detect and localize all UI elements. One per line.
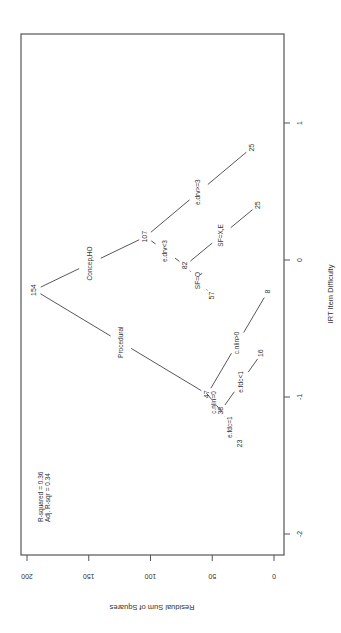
irt-tick-label: 0 bbox=[296, 258, 303, 262]
tree-node-rss: 107 bbox=[141, 231, 148, 243]
rss-tick-label: 50 bbox=[208, 573, 216, 580]
rss-tick-label: 100 bbox=[145, 573, 157, 580]
edge-split-label: Concep,HO bbox=[86, 246, 94, 280]
tree-node-rss: 57 bbox=[208, 292, 215, 300]
x-axis-title: IRT Item Difficulty bbox=[326, 264, 335, 323]
tree-edge bbox=[190, 243, 212, 261]
regression-tree-chart: 050100150200-2-101 Concep,HOProcedurale.… bbox=[0, 0, 341, 633]
tree-edge bbox=[225, 392, 234, 405]
tree-edge-labels: Concep,HOProcedurale.drv>=3e.drv<3SF=X,E… bbox=[86, 179, 244, 438]
tree-node-rss: 8 bbox=[264, 289, 271, 293]
edge-split-label: c.nlin>0 bbox=[233, 331, 240, 354]
edge-split-label: e.drv>=3 bbox=[194, 179, 201, 205]
tree-node-labels: 15410725822557478381623 bbox=[30, 144, 270, 448]
edge-split-label: e.fdc<1 bbox=[237, 371, 244, 393]
tree-edge bbox=[175, 258, 179, 261]
fit-statistics: R-squared = 0.36 Adj. R-sqr = 0.34 bbox=[37, 471, 52, 522]
edge-split-label: Procedural bbox=[117, 326, 124, 358]
edge-split-label: e.drv<3 bbox=[161, 240, 168, 262]
tree-node-rss: 25 bbox=[254, 201, 261, 209]
tree-edge bbox=[207, 289, 208, 290]
tree-node-rss: 25 bbox=[248, 144, 255, 152]
irt-tick-label: -1 bbox=[296, 394, 303, 400]
tree-node-rss: 154 bbox=[30, 284, 37, 296]
tree-edge bbox=[211, 353, 232, 388]
tree-edge bbox=[248, 359, 257, 372]
tree-node-rss: 47 bbox=[203, 390, 210, 398]
tree-edges bbox=[40, 152, 264, 437]
adj-r-squared-label: Adj. R-sqr = 0.34 bbox=[44, 473, 52, 522]
tree-edge bbox=[231, 210, 253, 228]
rss-tick-label: 0 bbox=[272, 573, 276, 580]
edge-split-label: SF=X,E bbox=[217, 223, 224, 246]
tree-node-rss: 16 bbox=[257, 349, 264, 357]
tree-node-rss: 82 bbox=[181, 261, 188, 269]
rss-tick-label: 150 bbox=[83, 573, 95, 580]
irt-tick-label: -2 bbox=[296, 531, 303, 537]
tree-edge bbox=[131, 348, 201, 390]
tree-edge bbox=[190, 271, 191, 272]
irt-tick-label: 1 bbox=[296, 121, 303, 125]
tree-edge bbox=[244, 298, 265, 333]
tree-edge bbox=[101, 240, 139, 258]
plot-frame bbox=[21, 34, 284, 555]
tree-edge bbox=[151, 241, 155, 244]
chart-canvas: 050100150200-2-101 Concep,HOProcedurale.… bbox=[0, 0, 341, 633]
tree-edge bbox=[151, 200, 190, 232]
tree-edge bbox=[40, 294, 110, 336]
edge-split-label: e.fdc=1 bbox=[226, 416, 233, 438]
tree-node-rss: 38 bbox=[217, 407, 224, 415]
edge-split-label: SF=Q bbox=[194, 272, 202, 289]
tree-node-rss: 23 bbox=[236, 440, 243, 448]
tree-edge bbox=[208, 152, 247, 184]
rss-tick-label: 200 bbox=[21, 573, 33, 580]
y-axis-title: Residual Sum of Squares bbox=[109, 603, 194, 612]
tree-edge bbox=[41, 269, 79, 287]
